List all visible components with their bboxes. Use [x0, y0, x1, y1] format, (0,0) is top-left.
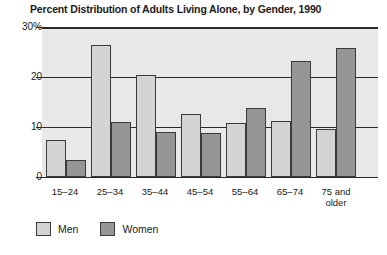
- bar-women-25-34: [111, 122, 131, 177]
- legend-swatch-men-icon: [36, 222, 51, 236]
- bar-men-15-24: [46, 140, 66, 178]
- bar-men-65-74: [271, 121, 291, 177]
- chart-title: Percent Distribution of Adults Living Al…: [30, 3, 321, 15]
- bar-women-35-44: [156, 132, 176, 177]
- bar-chart: Percent Distribution of Adults Living Al…: [0, 0, 387, 255]
- plot-area: [42, 27, 378, 177]
- gridline-30: [42, 27, 378, 29]
- x-tick-label-45-54: 45–54: [177, 186, 223, 197]
- legend-label-men: Men: [58, 223, 78, 235]
- legend-label-women: Women: [122, 223, 158, 235]
- x-axis-baseline: [42, 177, 378, 178]
- legend-item-men: Men: [36, 222, 78, 236]
- bar-men-75-older: [316, 129, 336, 178]
- bar-women-75-older: [336, 48, 356, 177]
- legend-item-women: Women: [100, 222, 158, 236]
- legend-swatch-women-icon: [100, 222, 115, 236]
- bar-women-45-54: [201, 133, 221, 177]
- x-tick-label-55-64: 55–64: [222, 186, 268, 197]
- y-axis: 30% 20 10 0: [0, 0, 42, 255]
- x-tick-label-25-34: 25–34: [87, 186, 133, 197]
- x-tick-label-65-74: 65–74: [267, 186, 313, 197]
- x-tick-label-15-24: 15–24: [42, 186, 88, 197]
- x-tick-label-75-older: 75 and older: [312, 186, 360, 208]
- bar-men-25-34: [91, 45, 111, 178]
- bar-men-55-64: [226, 123, 246, 177]
- legend: Men Women: [36, 222, 172, 236]
- bar-women-55-64: [246, 108, 266, 177]
- bar-women-65-74: [291, 61, 311, 177]
- bar-men-35-44: [136, 75, 156, 177]
- bar-men-45-54: [181, 114, 201, 177]
- bar-women-15-24: [66, 160, 86, 178]
- x-tick-label-35-44: 35–44: [132, 186, 178, 197]
